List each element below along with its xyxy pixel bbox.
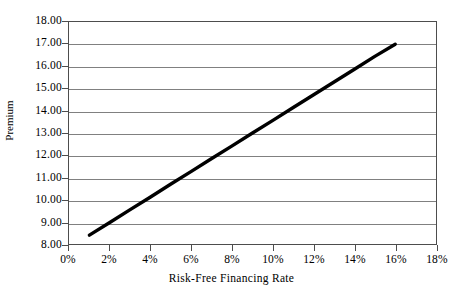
series-line-premium xyxy=(69,22,436,244)
y-axis-tick-label: 16.00 xyxy=(0,60,62,72)
y-axis-tick-labels: 8.009.0010.0011.0012.0013.0014.0015.0016… xyxy=(0,21,62,245)
y-axis-tick-label: 15.00 xyxy=(0,82,62,94)
x-axis-tick-marks xyxy=(68,245,437,251)
x-axis-tick-mark xyxy=(150,245,151,251)
y-axis-tick-label: 10.00 xyxy=(0,194,62,206)
x-axis-tick-mark xyxy=(273,245,274,251)
x-axis-tick-mark xyxy=(437,245,438,251)
y-axis-tick-label: 9.00 xyxy=(0,217,62,229)
x-axis-tick-mark xyxy=(355,245,356,251)
y-axis-tick-label: 12.00 xyxy=(0,149,62,161)
y-axis-tick-label: 11.00 xyxy=(0,172,62,184)
x-axis-tick-mark xyxy=(314,245,315,251)
x-axis-tick-mark xyxy=(232,245,233,251)
y-axis-tick-label: 8.00 xyxy=(0,239,62,251)
y-axis-tick-label: 17.00 xyxy=(0,37,62,49)
x-axis-tick-mark xyxy=(396,245,397,251)
x-axis-tick-mark xyxy=(68,245,69,251)
chart-container: Premium 8.009.0010.0011.0012.0013.0014.0… xyxy=(0,0,463,296)
x-axis-tick-mark xyxy=(191,245,192,251)
plot-area xyxy=(68,21,437,245)
x-axis-tick-labels: 0%2%4%6%8%10%12%14%16%18% xyxy=(68,253,437,269)
x-axis-tick-label: 18% xyxy=(412,253,462,266)
y-axis-tick-label: 18.00 xyxy=(0,15,62,27)
y-axis-tick-label: 14.00 xyxy=(0,105,62,117)
x-axis-title: Risk-Free Financing Rate xyxy=(0,272,463,285)
y-axis-tick-label: 13.00 xyxy=(0,127,62,139)
x-axis-tick-mark xyxy=(109,245,110,251)
